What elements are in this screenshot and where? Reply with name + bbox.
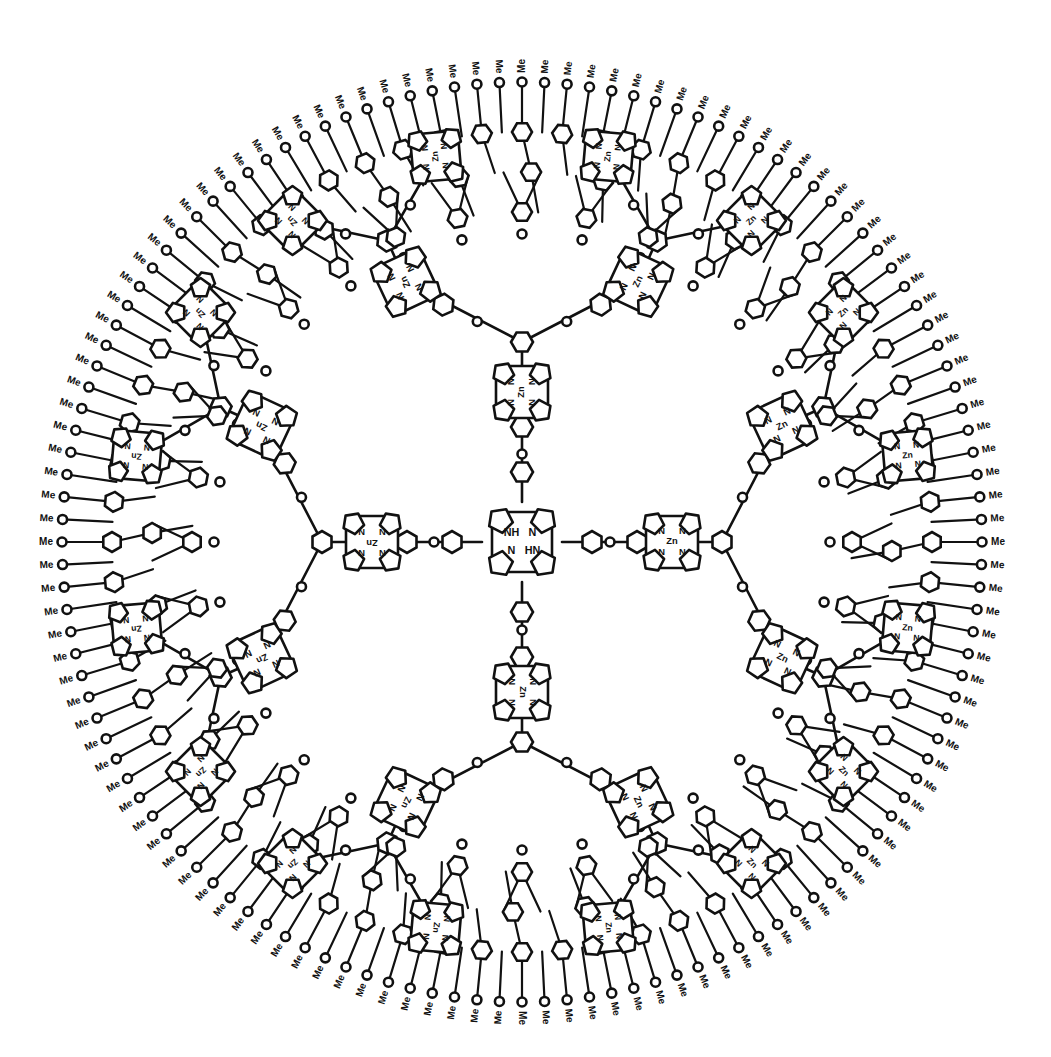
ether-oxygen: [843, 863, 852, 872]
bond: [874, 306, 917, 332]
ether-oxygen: [518, 846, 527, 855]
ether-oxygen: [964, 426, 973, 435]
nitrogen-label: N: [124, 634, 131, 645]
zinc-label: Zn: [431, 922, 442, 933]
bond: [63, 519, 113, 521]
phenyl-ring: [817, 407, 837, 426]
phenyl-ring: [511, 418, 533, 437]
zinc-label: Zn: [516, 386, 526, 398]
phenyl-ring: [836, 468, 855, 488]
ether-oxygen: [977, 560, 986, 569]
nitrogen-label: N: [895, 612, 902, 623]
ether-oxygen: [215, 598, 224, 607]
ether-oxygen: [958, 671, 967, 680]
phenyl-ring: [646, 877, 665, 897]
ether-oxygen: [112, 321, 121, 330]
methyl-label: Me: [73, 715, 90, 731]
ether-oxygen: [933, 341, 942, 350]
phenyl-ring: [512, 863, 532, 880]
methyl-label: Me: [268, 941, 285, 959]
phenyl-ring: [380, 187, 399, 207]
bond: [660, 928, 677, 975]
zn-porphyrin: NNNNZn: [580, 128, 637, 185]
phenyl-ring: [817, 659, 837, 678]
methyl-label: Me: [943, 330, 961, 346]
phenyl-ring: [786, 350, 806, 368]
methyl-label: Me: [990, 512, 1005, 524]
ether-oxygen: [689, 794, 698, 803]
phenyl-ring: [133, 376, 153, 394]
methyl-label: Me: [696, 93, 712, 110]
ether-oxygen: [923, 754, 932, 763]
ether-oxygen: [735, 755, 744, 764]
methyl-label: Me: [832, 180, 850, 198]
nitrogen-label: N: [440, 162, 451, 169]
ether-oxygen: [518, 998, 527, 1007]
methyl-label: Me: [676, 981, 691, 998]
phenyl-ring: [238, 350, 258, 368]
nitrogen-label: N: [914, 614, 921, 625]
phenyl-ring: [503, 903, 523, 920]
methyl-label: Me: [798, 915, 815, 933]
phenyl-ring: [874, 727, 894, 745]
nitrogen-label: N: [440, 934, 451, 941]
ether-oxygen: [964, 649, 973, 658]
ether-oxygen: [942, 361, 951, 370]
methyl-label: Me: [66, 373, 83, 388]
ether-oxygen: [192, 212, 201, 221]
ether-oxygen: [177, 846, 186, 855]
methyl-label: Me: [193, 885, 211, 903]
ether-oxygen: [297, 493, 306, 502]
bond: [826, 817, 863, 851]
phenyl-ring: [552, 125, 572, 143]
ether-oxygen: [112, 754, 121, 763]
methyl-label: Me: [881, 230, 899, 248]
phenyl-ring: [279, 299, 298, 318]
ether-oxygen: [792, 907, 801, 916]
nitrogen-label: N: [895, 460, 902, 471]
nitrogen-label: N: [914, 459, 921, 470]
ether-oxygen: [933, 734, 942, 743]
ether-oxygen: [773, 920, 782, 929]
ether-oxygen: [148, 263, 157, 272]
zn-porphyrin: NNNNZn: [714, 183, 788, 257]
phenyl-ring: [577, 209, 597, 228]
ether-oxygen: [341, 113, 350, 122]
nitrogen-label: N: [679, 526, 686, 536]
zinc-label: Zn: [518, 686, 528, 698]
ether-oxygen: [518, 78, 527, 87]
ether-oxygen: [406, 874, 415, 883]
ether-oxygen: [809, 893, 818, 902]
phenyl-ring: [189, 468, 208, 488]
methyl-label: Me: [117, 797, 135, 814]
bond: [893, 345, 938, 366]
phenyl-ring: [836, 597, 855, 617]
bond: [213, 201, 247, 238]
methyl-label: Me: [981, 627, 997, 641]
phenyl-ring: [583, 531, 602, 553]
nitrogen-label: N: [143, 632, 150, 643]
ether-oxygen: [71, 649, 80, 658]
ether-oxygen: [261, 366, 270, 375]
methyl-label: Me: [586, 1005, 599, 1021]
phenyl-ring: [356, 911, 374, 931]
ether-oxygen: [472, 80, 481, 89]
bond: [797, 201, 831, 238]
methyl-label: Me: [118, 268, 136, 285]
phenyl-ring: [313, 531, 332, 553]
zinc-label: Zn: [666, 536, 678, 546]
nitrogen-label: N: [594, 143, 605, 150]
methyl-label: Me: [953, 351, 970, 367]
nitrogen-label: N: [439, 143, 450, 150]
methyl-label: Me: [759, 941, 776, 959]
ether-oxygen: [262, 920, 271, 929]
ether-oxygen: [495, 997, 504, 1006]
bond: [127, 306, 170, 332]
methyl-label: Me: [516, 59, 527, 73]
methyl-label: Me: [39, 559, 54, 571]
methyl-label: Me: [758, 124, 775, 142]
phenyl-ring: [448, 209, 468, 228]
ether-oxygen: [84, 383, 93, 392]
methyl-label: Me: [866, 852, 884, 870]
ether-oxygen: [578, 840, 587, 849]
